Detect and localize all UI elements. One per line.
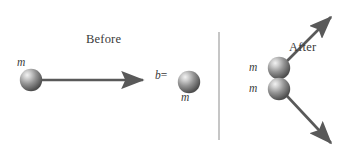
outgoing-lower-sphere — [268, 78, 290, 100]
impact-parameter-operator: = — [161, 69, 168, 81]
before-panel-title: Before — [86, 33, 121, 46]
target-sphere — [178, 71, 200, 93]
impact-parameter-label: b= — [155, 70, 167, 82]
outgoing-lower-mass-label: m — [249, 83, 257, 95]
outgoing-lower-velocity-arrow — [287, 96, 331, 143]
incoming-mass-label: m — [17, 57, 25, 69]
outgoing-upper-mass-label: m — [249, 62, 257, 74]
outgoing-upper-sphere — [268, 57, 290, 79]
outgoing-upper-velocity-arrow — [287, 17, 331, 61]
target-mass-label: m — [181, 92, 189, 104]
diagram-graphics-layer — [0, 0, 350, 157]
incoming-sphere — [20, 69, 42, 91]
collision-diagram: Before After m m m m b= — [0, 0, 350, 157]
after-panel-title: After — [289, 41, 316, 54]
